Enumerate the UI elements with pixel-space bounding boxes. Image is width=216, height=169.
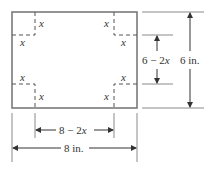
label-x-bl-top: x (19, 71, 25, 83)
cut-top-left (12, 12, 35, 35)
bottom-extension-lines (12, 113, 137, 162)
cut-top-right (114, 12, 137, 35)
label-x-br-top: x (120, 71, 126, 83)
sheet-outline (12, 12, 137, 108)
label-x-tl-side: x (38, 17, 44, 29)
label-x-tl-bottom: x (19, 36, 25, 48)
label-x-br-side: x (103, 90, 109, 102)
label-x-tr-bottom: x (120, 36, 126, 48)
cut-bottom-right (114, 84, 137, 108)
outer-height-label: 6 in. (180, 54, 200, 66)
inner-height-label: 6 − 2x (142, 54, 170, 66)
outer-width-label: 8 in. (64, 142, 84, 154)
inner-width-label: 8 − 2x (59, 124, 87, 136)
corner-cuts (12, 12, 137, 108)
cut-bottom-left (12, 84, 35, 108)
label-x-tr-side: x (103, 17, 109, 29)
box-cutout-diagram: x x x x x x x x 6 − 2x 6 in. 8 − 2x 8 (0, 0, 216, 169)
label-x-bl-side: x (38, 90, 44, 102)
